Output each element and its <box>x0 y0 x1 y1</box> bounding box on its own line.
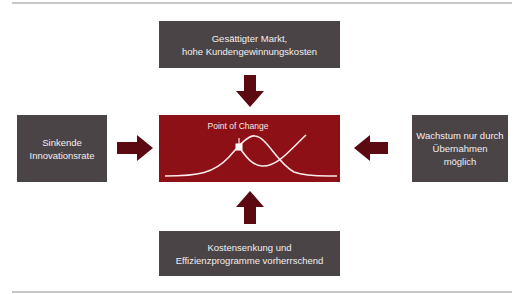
top-box-text: Gesättigter Markt, hohe Kundengewinnungs… <box>182 32 317 58</box>
center-chart-box: Point of Change <box>159 115 340 182</box>
top-box: Gesättigter Markt, hohe Kundengewinnungs… <box>159 21 340 68</box>
right-box-text: Wachstum nur durch Übernahmen möglich <box>416 129 504 168</box>
arrow-right-icon <box>117 135 153 161</box>
bottom-box-text: Kostensenkung und Effizienzprogramme vor… <box>176 241 324 267</box>
bottom-box: Kostensenkung und Effizienzprogramme vor… <box>159 231 340 276</box>
arrow-up-icon <box>236 191 264 224</box>
right-box: Wachstum nur durch Übernahmen möglich <box>412 115 508 182</box>
point-of-change-marker-icon <box>236 144 243 151</box>
bell-curve-icon <box>165 136 337 176</box>
top-rule <box>12 2 512 4</box>
arrow-left-icon <box>354 135 388 161</box>
left-box: Sinkende Innovationsrate <box>17 115 107 182</box>
point-of-change-label: Point of Change <box>208 121 269 131</box>
curves-graphic: Point of Change <box>159 115 340 182</box>
left-box-text: Sinkende Innovationsrate <box>30 136 95 162</box>
arrow-down-icon <box>236 75 264 107</box>
bottom-rule <box>12 291 512 293</box>
